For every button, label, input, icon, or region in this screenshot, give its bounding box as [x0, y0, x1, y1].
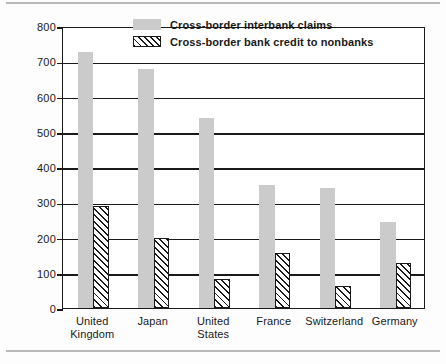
x-axis-tick-label: Japan — [138, 315, 168, 328]
x-axis-tick-label: France — [256, 315, 291, 328]
legend-swatch-hatch-icon — [133, 36, 161, 47]
y-axis-tick — [57, 309, 63, 311]
y-axis-tick-label: 200 — [37, 233, 56, 245]
gridline — [63, 133, 424, 135]
y-axis-tick-label: 0 — [50, 303, 56, 315]
legend-swatch-solid-icon — [133, 19, 161, 30]
legend-item-credit-to-nonbanks: Cross-border bank credit to nonbanks — [133, 33, 361, 50]
bar-interbank-claims — [380, 222, 396, 308]
gridline — [63, 204, 424, 206]
y-axis-tick-label: 700 — [37, 56, 56, 68]
chart-legend: Cross-border interbank claims Cross-bord… — [133, 16, 361, 50]
bar-credit-to-nonbanks — [275, 253, 291, 308]
gridline — [63, 63, 424, 65]
y-axis-tick-label: 400 — [37, 162, 56, 174]
bar-credit-to-nonbanks — [214, 279, 230, 308]
bar-interbank-claims — [78, 52, 94, 308]
x-axis-tick-label: United States — [197, 315, 229, 341]
y-axis-tick — [57, 98, 63, 100]
bar-credit-to-nonbanks — [335, 286, 351, 308]
y-axis-tick — [57, 274, 63, 276]
y-axis-tick-label: 500 — [37, 127, 56, 139]
plot-frame — [62, 27, 425, 309]
x-axis-tick-label: Switzerland — [305, 315, 363, 328]
y-axis-tick-label: 800 — [37, 21, 56, 33]
y-axis-tick-label: 100 — [37, 268, 56, 280]
y-axis-tick — [57, 239, 63, 241]
legend-item-interbank-claims: Cross-border interbank claims — [133, 16, 361, 33]
gridline — [63, 168, 424, 170]
legend-label: Cross-border interbank claims — [170, 19, 332, 31]
y-axis-tick — [57, 133, 63, 135]
y-axis-tick — [57, 63, 63, 65]
y-axis-tick-label: 300 — [37, 197, 56, 209]
bar-credit-to-nonbanks — [154, 238, 170, 309]
bar-credit-to-nonbanks — [396, 263, 412, 308]
y-axis-tick — [57, 204, 63, 206]
gridline — [63, 274, 424, 276]
bar-interbank-claims — [138, 69, 154, 308]
plot-area — [63, 28, 424, 308]
y-axis-tick — [57, 27, 63, 29]
legend-label: Cross-border bank credit to nonbanks — [170, 36, 373, 48]
y-axis-tick-label: 600 — [37, 92, 56, 104]
chart-page: Billions of U.S. dollars 800700600500400… — [0, 0, 446, 364]
y-axis-tick — [57, 168, 63, 170]
bar-chart: Billions of U.S. dollars 800700600500400… — [0, 0, 446, 364]
x-axis-tick-label: United Kingdom — [70, 315, 114, 341]
bar-interbank-claims — [320, 188, 336, 308]
bar-credit-to-nonbanks — [93, 206, 109, 308]
x-axis-tick-label: Germany — [372, 315, 418, 328]
gridline — [63, 239, 424, 241]
bar-interbank-claims — [259, 185, 275, 308]
gridline — [63, 98, 424, 100]
bar-interbank-claims — [199, 118, 215, 308]
